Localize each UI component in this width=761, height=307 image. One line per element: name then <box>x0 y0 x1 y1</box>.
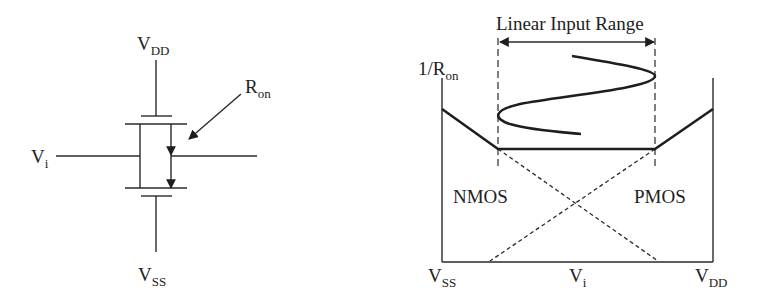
vdd-label: VDD <box>137 33 170 58</box>
nmos-label: NMOS <box>453 186 508 207</box>
x-vi-label: Vi <box>569 265 587 290</box>
pmos-conductance-line <box>490 149 655 261</box>
vss-label: VSS <box>138 264 166 289</box>
input-signal-waveform <box>498 56 655 134</box>
x-vss-label: VSS <box>428 265 456 290</box>
vi-input-label: Vi <box>31 146 49 171</box>
diagram-canvas: VDD VSS Vi Ron 1/Ron Linear Input Range <box>0 0 761 307</box>
range-label: Linear Input Range <box>496 13 644 34</box>
conductance-graph: 1/Ron Linear Input Range NMOS PMOS VSS V… <box>418 13 728 290</box>
ron-label: Ron <box>245 76 271 101</box>
y-axis-label: 1/Ron <box>418 58 459 83</box>
x-vdd-label: VDD <box>695 265 728 290</box>
transmission-gate-schematic: VDD VSS Vi Ron <box>31 33 271 289</box>
total-conductance-curve <box>442 109 713 149</box>
ron-pointer-arrow <box>189 94 241 139</box>
pmos-label: PMOS <box>634 186 686 207</box>
